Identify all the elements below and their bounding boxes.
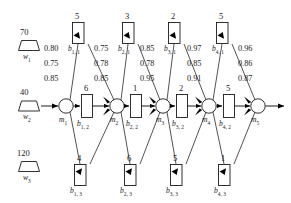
weight-value: 0.75	[94, 45, 108, 53]
weight-value: 0.78	[140, 60, 154, 68]
block-label-b2-1: b2, 1	[118, 45, 130, 55]
node-label-m4: m4	[202, 116, 210, 126]
weight-value: 0.78	[94, 60, 108, 68]
block-label-b4-3: b4, 3	[214, 187, 226, 197]
block-label-b3-1: b3, 1	[164, 45, 176, 55]
block-value-b1-1: 5	[75, 12, 79, 21]
node-m4	[202, 99, 216, 113]
block-value-b2-2: 1	[133, 84, 137, 93]
node-label-m2: m2	[110, 116, 118, 126]
weight-value: 0.85	[44, 75, 58, 83]
block-value-b4-1: 5	[219, 12, 223, 21]
block-b4-2	[224, 95, 235, 118]
weight-value: 0.87	[238, 75, 252, 83]
block-value-b3-1: 2	[171, 12, 175, 21]
block-value-b2-1: 3	[125, 12, 129, 21]
node-m5	[251, 99, 265, 113]
block-b3-3	[171, 165, 183, 186]
input-shape-w2	[19, 101, 40, 111]
weight-value: 0.91	[187, 75, 201, 83]
block-b3-2	[177, 95, 188, 118]
weight-value: 0.95	[140, 75, 154, 83]
node-m2	[110, 99, 124, 113]
block-value-b1-3: 4	[77, 154, 81, 163]
weight-value: 0.75	[44, 60, 58, 68]
block-value-b3-3: 5	[173, 154, 177, 163]
input-value-w3: 120	[17, 149, 30, 158]
block-label-b1-1: b1, 1	[68, 45, 80, 55]
weight-value: 0.85	[140, 45, 154, 53]
weight-value: 0.80	[44, 45, 58, 53]
input-value-w2: 40	[20, 88, 29, 97]
node-label-m3: m3	[156, 116, 164, 126]
weight-value: 0.97	[187, 45, 201, 53]
block-label-b2-3: b2, 3	[120, 187, 132, 197]
weight-value: 0.85	[187, 60, 201, 68]
input-shape-w1	[19, 41, 40, 51]
input-shape-w3	[19, 162, 40, 172]
block-b2-2	[131, 95, 142, 118]
input-value-w1: 70	[20, 28, 29, 37]
block-value-b1-2: 6	[84, 84, 88, 93]
input-label-w3: w3	[23, 174, 31, 184]
block-label-b4-2: b4, 2	[219, 120, 231, 130]
block-label-b3-3: b3, 3	[166, 187, 178, 197]
diagram-vector-layer	[0, 0, 291, 203]
block-b1-2	[82, 95, 93, 118]
block-label-b3-2: b3, 2	[172, 120, 184, 130]
block-value-b4-3: 1	[221, 154, 225, 163]
input-label-w2: w2	[23, 113, 31, 123]
block-b1-3	[75, 165, 87, 186]
block-label-b1-3: b1, 3	[70, 187, 82, 197]
node-label-m1: m1	[59, 116, 67, 126]
block-label-b4-1: b4, 1	[212, 45, 224, 55]
block-label-b2-2: b2, 2	[126, 120, 138, 130]
diagram-canvas: 70 w1 40 w2 120 w3 m1 m2 m3 m4 m5 5 b1, …	[0, 0, 291, 203]
block-b2-3	[125, 165, 137, 186]
block-value-b2-3: 6	[127, 154, 131, 163]
node-m1	[59, 99, 73, 113]
node-label-m5: m5	[251, 116, 259, 126]
block-value-b4-2: 5	[226, 84, 230, 93]
weight-value: 0.96	[238, 45, 252, 53]
block-b4-3	[219, 165, 231, 186]
input-label-w1: w1	[23, 53, 31, 63]
weight-value: 0.86	[238, 60, 252, 68]
block-value-b3-2: 2	[179, 84, 183, 93]
weight-value: 0.85	[94, 75, 108, 83]
block-label-b1-2: b1, 2	[77, 120, 89, 130]
node-m3	[156, 99, 170, 113]
